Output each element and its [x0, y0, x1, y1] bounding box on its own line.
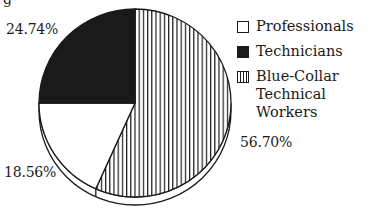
hatched-swatch-icon: [237, 71, 249, 83]
chart-legend: Professionals Technicians Blue-Collar Te…: [237, 17, 386, 121]
legend-item-professionals: Professionals: [237, 17, 386, 42]
bluecollar-percent-label: 56.70%: [240, 134, 292, 150]
legend-label: Technicians: [256, 42, 343, 60]
legend-label: Blue-Collar Technical Workers: [256, 67, 386, 121]
professionals-percent-label: 18.56%: [4, 164, 56, 180]
legend-label-line2: Workers: [256, 104, 317, 120]
legend-label: Professionals: [256, 17, 354, 35]
legend-item-technicians: Technicians: [237, 42, 386, 67]
legend-item-bluecollar: Blue-Collar Technical Workers: [237, 67, 386, 121]
white-swatch-icon: [237, 21, 249, 33]
technicians-percent-label: 24.74%: [6, 21, 58, 37]
black-swatch-icon: [237, 46, 249, 58]
legend-label-line1: Blue-Collar Technical: [256, 68, 339, 102]
